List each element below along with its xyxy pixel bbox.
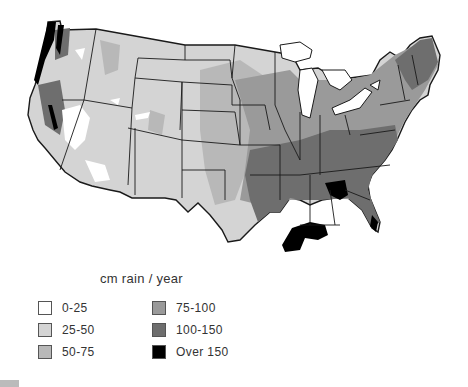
legend-item-100-150: 100-150 xyxy=(152,322,223,338)
legend-caption: cm rain / year xyxy=(100,271,183,286)
legend-item-50-75: 50-75 xyxy=(38,344,95,360)
precipitation-map xyxy=(0,0,468,270)
legend-swatch-icon xyxy=(152,345,166,359)
legend-item-over-150: Over 150 xyxy=(152,344,229,360)
legend-swatch-icon xyxy=(152,301,166,315)
legend-swatch-icon xyxy=(38,345,52,359)
legend-item-0-25: 0-25 xyxy=(38,300,88,316)
legend-swatch-icon xyxy=(38,301,52,315)
corner-mark xyxy=(0,380,19,387)
legend-item-75-100: 75-100 xyxy=(152,300,216,316)
legend-swatch-icon xyxy=(152,323,166,337)
legend-item-25-50: 25-50 xyxy=(38,322,95,338)
legend-swatch-icon xyxy=(38,323,52,337)
